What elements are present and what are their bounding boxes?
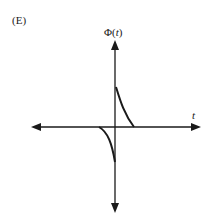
y-axis-top-arrow-icon [111,40,119,50]
negative-growth-curve [99,127,115,162]
x-axis-right-arrow-icon [191,123,201,131]
x-axis-left-arrow-icon [31,123,41,131]
positive-decay-curve [116,87,134,127]
y-axis-bottom-arrow-icon [111,203,119,213]
plot-canvas [0,0,208,220]
